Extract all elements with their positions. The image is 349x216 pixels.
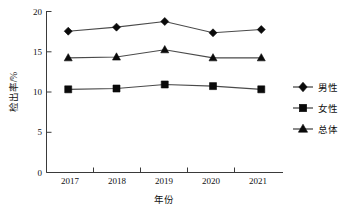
y-tick-label: 20 bbox=[33, 7, 43, 17]
y-axis-tick-labels: 20 15 10 5 0 bbox=[33, 7, 43, 178]
legend-label-female: 女性 bbox=[318, 103, 338, 114]
line-chart: 20 15 10 5 0 2017 2018 2019 2020 2021 年份… bbox=[0, 0, 349, 216]
triangle-marker-icon bbox=[298, 124, 307, 132]
y-tick-label: 10 bbox=[33, 87, 43, 97]
series-markers-female bbox=[65, 81, 265, 93]
chart-figure: 20 15 10 5 0 2017 2018 2019 2020 2021 年份… bbox=[0, 0, 349, 216]
y-tick-label: 0 bbox=[38, 168, 43, 178]
data-point-marker bbox=[161, 81, 168, 88]
data-point-marker bbox=[258, 86, 265, 93]
data-point-marker bbox=[257, 26, 265, 34]
x-tick-label: 2021 bbox=[249, 176, 267, 186]
square-marker-icon bbox=[299, 104, 306, 111]
x-tick-label: 2017 bbox=[61, 176, 80, 186]
legend-label-overall: 总体 bbox=[318, 124, 338, 135]
y-axis-ticks bbox=[47, 12, 52, 173]
x-axis-ticks bbox=[94, 168, 235, 173]
legend-item-overall[interactable]: 总体 bbox=[293, 124, 338, 135]
data-point-marker bbox=[65, 86, 72, 93]
legend-item-male[interactable]: 男性 bbox=[293, 82, 338, 93]
data-point-marker bbox=[161, 46, 169, 53]
legend-label-male: 男性 bbox=[318, 82, 338, 93]
y-tick-label: 15 bbox=[33, 47, 43, 57]
data-point-marker bbox=[113, 85, 120, 92]
x-axis-title: 年份 bbox=[154, 194, 174, 205]
data-point-marker bbox=[210, 83, 217, 90]
data-point-marker bbox=[112, 23, 120, 31]
chart-legend: 男性 女性 总体 bbox=[293, 82, 338, 135]
x-tick-label: 2020 bbox=[202, 176, 221, 186]
y-tick-label: 5 bbox=[38, 127, 43, 137]
series-markers-overall bbox=[64, 46, 265, 61]
legend-item-female[interactable]: 女性 bbox=[293, 103, 338, 114]
x-axis-tick-labels: 2017 2018 2019 2020 2021 bbox=[61, 176, 267, 186]
data-point-marker bbox=[161, 17, 169, 25]
data-point-marker bbox=[257, 54, 265, 61]
x-tick-label: 2019 bbox=[155, 176, 174, 186]
y-axis-title: 检出率/% bbox=[8, 72, 19, 113]
series-markers-male bbox=[64, 17, 265, 36]
data-point-marker bbox=[209, 29, 217, 37]
x-tick-label: 2018 bbox=[108, 176, 127, 186]
data-point-marker bbox=[64, 27, 72, 35]
diamond-marker-icon bbox=[299, 82, 307, 92]
